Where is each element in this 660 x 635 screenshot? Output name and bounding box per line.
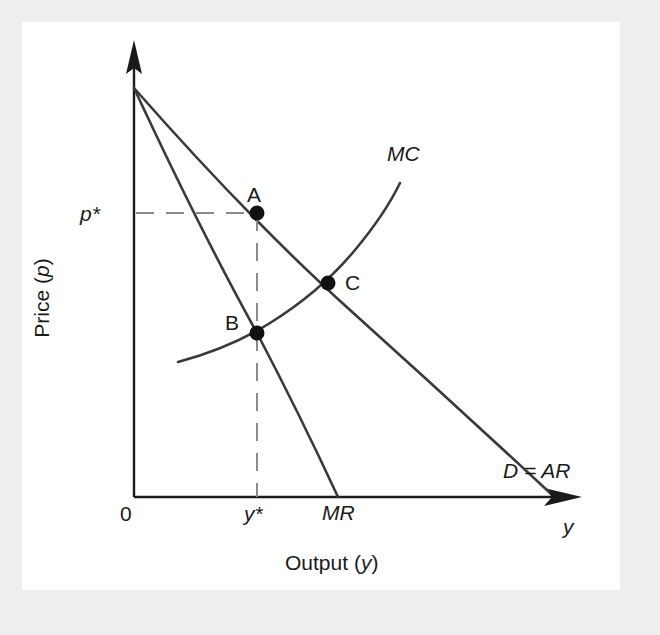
- x-axis-label-close: ): [371, 551, 378, 574]
- x-axis-label: Output (y): [285, 552, 378, 573]
- demand-curve: [134, 88, 549, 492]
- point-B-label: B: [225, 312, 239, 333]
- monopoly-diagram-svg: [0, 0, 660, 635]
- y-axis-label-close: ): [30, 258, 53, 265]
- point-A-label: A: [247, 184, 261, 205]
- y-axis-label: Price (p): [30, 228, 54, 368]
- point-B-marker: [250, 326, 265, 341]
- price-tick-label: p*: [80, 203, 100, 224]
- x-axis-label-variable: y: [361, 551, 372, 574]
- origin-label: 0: [120, 503, 132, 524]
- marginal-cost-label: MC: [387, 143, 420, 164]
- marginal-revenue-label: MR: [322, 502, 355, 523]
- guide-lines-group: [136, 213, 257, 497]
- demand-curve-label: D = AR: [503, 460, 571, 481]
- point-C-marker: [321, 276, 336, 291]
- y-axis-label-variable: p: [30, 265, 53, 277]
- figure-page: A B C MC D = AR MR p* y* 0 y Price (p) O…: [0, 0, 660, 635]
- point-C-label: C: [345, 272, 360, 293]
- output-tick-label: y*: [244, 503, 263, 524]
- x-axis-tip-label: y: [563, 516, 574, 537]
- point-A-marker: [250, 206, 265, 221]
- marginal-revenue-curve: [134, 88, 338, 497]
- marginal-cost-curve: [178, 183, 400, 362]
- y-axis-label-text: Price (: [30, 277, 53, 338]
- x-axis-label-text: Output (: [285, 551, 361, 574]
